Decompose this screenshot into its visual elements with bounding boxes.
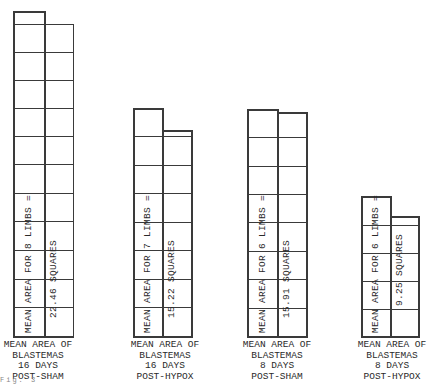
bar1-grid-line bbox=[13, 108, 74, 109]
bar1-grid-line bbox=[13, 164, 74, 165]
bar3-caption: MEAN AREA OF BLASTEMAS 8 DAYS POST-SHAM bbox=[237, 340, 317, 382]
bar1-inner-label: MEAN AREA FOR 8 LIMBS = bbox=[23, 195, 34, 333]
bar1-grid-line bbox=[13, 24, 74, 25]
bar2-grid-line bbox=[133, 136, 193, 137]
bar1-grid-line bbox=[13, 52, 74, 53]
bar2-inner-label: MEAN AREA FOR 7 LIMBS = bbox=[142, 195, 153, 333]
bar4-inner-label: MEAN AREA FOR 6 LIMBS = bbox=[370, 195, 381, 333]
bar-chart-figure: MEAN AREA FOR 8 LIMBS = 22.46 SQUARES ME… bbox=[0, 0, 433, 384]
bar2-right-top bbox=[162, 130, 193, 132]
bar1-grid-line bbox=[13, 193, 74, 194]
bar2-left-edge bbox=[133, 108, 135, 338]
bar4-left-edge bbox=[361, 196, 363, 338]
bar1-grid-line bbox=[13, 136, 74, 137]
bar3-right-top bbox=[277, 112, 308, 114]
figure-footer: Fig. 3 bbox=[0, 376, 37, 384]
bar1-value-label: 22.46 SQUARES bbox=[48, 240, 59, 318]
bar1-left-top bbox=[13, 11, 46, 13]
bar1-right-edge bbox=[73, 24, 74, 338]
bar3-left-edge bbox=[247, 109, 249, 338]
bar2-grid-line bbox=[133, 193, 193, 194]
bar2-grid-line bbox=[133, 165, 193, 166]
bar4-caption: MEAN AREA OF BLASTEMAS 8 DAYS POST-HYPOX bbox=[350, 340, 433, 382]
bar1-left-edge bbox=[13, 11, 15, 338]
bar3-grid-line bbox=[247, 137, 308, 138]
bar2-baseline bbox=[133, 336, 193, 338]
bar3-right-edge bbox=[306, 112, 308, 338]
bar1-mid-line bbox=[44, 11, 46, 338]
bar2-value-label: 15.22 SQUARES bbox=[166, 240, 177, 318]
bar3-baseline bbox=[247, 336, 308, 338]
bar3-left-top bbox=[247, 109, 279, 111]
bar4-right-edge bbox=[418, 216, 420, 338]
bar4-right-top bbox=[390, 216, 420, 218]
bar4-value-label: 9.25 SQUARES bbox=[394, 234, 405, 306]
bar1-grid-line bbox=[13, 80, 74, 81]
bar3-inner-label: MEAN AREA FOR 6 LIMBS = bbox=[257, 195, 268, 333]
bar2-left-top bbox=[133, 108, 164, 110]
bar3-mid-line bbox=[277, 109, 279, 338]
bar3-value-label: 15.91 SQUARES bbox=[281, 240, 292, 318]
bar3-grid-line bbox=[247, 166, 308, 167]
bar4-baseline bbox=[361, 336, 420, 338]
bar2-mid-line bbox=[162, 108, 164, 338]
bar1-baseline bbox=[13, 336, 74, 338]
bar2-caption: MEAN AREA OF BLASTEMAS 16 DAYS POST-HYPO… bbox=[120, 340, 210, 382]
